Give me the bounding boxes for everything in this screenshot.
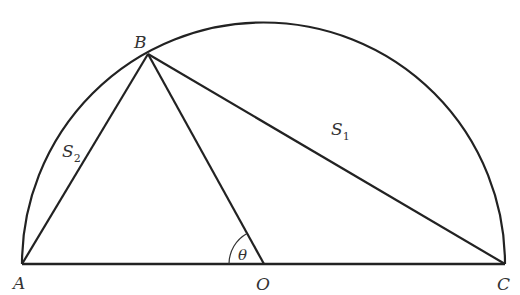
segment-AB bbox=[22, 54, 148, 264]
label-S1-subscript: 1 bbox=[343, 130, 350, 143]
segment-BC bbox=[148, 54, 505, 264]
label-S2-letter: S bbox=[62, 141, 74, 161]
semicircle-diagram: B A O C θ S2 S1 bbox=[0, 0, 520, 295]
segment-BO bbox=[148, 54, 264, 264]
label-theta: θ bbox=[238, 246, 247, 264]
label-S1: S1 bbox=[331, 119, 350, 143]
label-S2-subscript: 2 bbox=[74, 152, 81, 165]
label-A: A bbox=[11, 273, 25, 293]
label-B: B bbox=[133, 32, 147, 52]
label-S1-letter: S bbox=[331, 119, 343, 139]
label-C: C bbox=[497, 274, 510, 294]
label-O: O bbox=[256, 274, 270, 294]
label-S2: S2 bbox=[62, 141, 81, 165]
